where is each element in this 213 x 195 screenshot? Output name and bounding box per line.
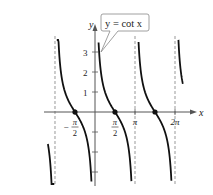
ticks: 321π2−π2π2π <box>63 48 180 173</box>
cot-branch <box>48 144 54 184</box>
y-tick-label: 2 <box>83 68 88 78</box>
x-tick-label: π <box>133 117 138 127</box>
function-callout: y = cot x <box>101 14 149 52</box>
x-axis-arrow-icon <box>190 110 197 115</box>
x-tick-label-sign: − <box>63 122 68 132</box>
x-tick-label-numerator: π <box>73 117 78 127</box>
callout-label: y = cot x <box>105 18 143 29</box>
y-tick-label: 3 <box>83 48 88 58</box>
cotangent-chart: x y 321π2−π2π2π y = cot x <box>0 0 213 195</box>
axes: x y <box>44 19 204 186</box>
y-tick-label: 1 <box>83 88 88 98</box>
zero-point <box>152 109 157 114</box>
cot-branch <box>178 40 182 84</box>
x-tick-label-denominator: 2 <box>73 128 77 138</box>
x-tick-label: 2π <box>170 117 180 127</box>
x-tick-label-denominator: 2 <box>113 128 117 138</box>
y-axis-label: y <box>88 19 94 30</box>
x-tick-label-numerator: π <box>113 117 118 127</box>
zero-point <box>112 109 117 114</box>
zero-point <box>72 109 77 114</box>
x-axis-label: x <box>198 107 204 118</box>
